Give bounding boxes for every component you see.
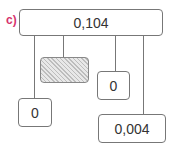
part-label: c) (6, 13, 17, 27)
bottom-right-leaf-value: 0,004 (114, 121, 149, 137)
connector-middle-right (115, 35, 116, 72)
connector-left (34, 35, 35, 99)
bottom-right-leaf-node: 0,004 (98, 114, 166, 143)
connector-hatched (63, 35, 64, 58)
middle-right-node: 0 (97, 71, 130, 100)
hatched-node (40, 57, 89, 83)
left-leaf-value: 0 (31, 105, 39, 121)
connector-right (143, 35, 144, 115)
left-leaf-node: 0 (18, 98, 52, 127)
root-node: 0,104 (19, 9, 163, 36)
root-value: 0,104 (73, 15, 108, 31)
middle-right-value: 0 (110, 78, 118, 94)
